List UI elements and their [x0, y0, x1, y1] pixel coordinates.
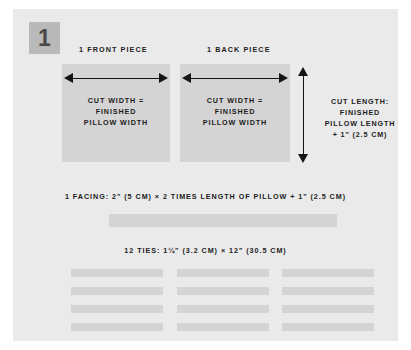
- facing-label: 1 FACING: 2" (5 CM) × 2 TIMES LENGTH OF …: [13, 192, 398, 201]
- diagram-panel: 1 1 FRONT PIECE 1 BACK PIECE CUT WIDTH =…: [13, 9, 398, 341]
- ties-grid: [71, 269, 374, 331]
- back-piece-caption-line-3: PILLOW WIDTH: [180, 117, 290, 128]
- facing-strip-rectangle: [109, 214, 337, 227]
- back-piece-caption-line-1: CUT WIDTH =: [180, 95, 290, 106]
- tie-strip: [282, 269, 374, 277]
- tie-strip: [177, 305, 269, 313]
- step-number-label: 1: [38, 27, 51, 50]
- tie-strip: [282, 305, 374, 313]
- cut-length-line-2: FINISHED: [313, 107, 407, 118]
- arrow-head-right-icon: [159, 73, 168, 83]
- arrow-shaft: [303, 74, 304, 156]
- tie-strip: [71, 269, 163, 277]
- tie-strip: [177, 323, 269, 331]
- front-piece-caption-line-3: PILLOW WIDTH: [62, 117, 170, 128]
- tie-column: [177, 269, 269, 331]
- front-piece-label: 1 FRONT PIECE: [79, 45, 148, 54]
- back-piece-label: 1 BACK PIECE: [207, 45, 271, 54]
- tie-strip: [177, 269, 269, 277]
- tie-strip: [282, 287, 374, 295]
- front-piece-caption-line-2: FINISHED: [62, 106, 170, 117]
- back-width-arrow-icon: [182, 72, 288, 84]
- step-number-badge: 1: [29, 22, 60, 54]
- cut-length-line-4: + 1" (2.5 CM): [313, 129, 407, 140]
- back-piece-caption-line-2: FINISHED: [180, 106, 290, 117]
- tie-strip: [282, 323, 374, 331]
- back-piece-caption: CUT WIDTH = FINISHED PILLOW WIDTH: [180, 95, 290, 128]
- front-piece-caption-line-1: CUT WIDTH =: [62, 95, 170, 106]
- tie-strip: [71, 323, 163, 331]
- diagram-root: 1 1 FRONT PIECE 1 BACK PIECE CUT WIDTH =…: [0, 0, 411, 350]
- tie-strip: [71, 287, 163, 295]
- arrow-head-right-icon: [279, 73, 288, 83]
- ties-label: 12 TIES: 1¼" (3.2 CM) × 12" (30.5 CM): [13, 246, 398, 255]
- arrow-shaft: [71, 78, 161, 79]
- tie-column: [71, 269, 163, 331]
- front-width-arrow-icon: [64, 72, 168, 84]
- arrow-head-down-icon: [298, 154, 308, 163]
- cut-length-arrow-icon: [297, 67, 309, 163]
- cut-length-line-1: CUT LENGTH:: [313, 96, 407, 107]
- cut-length-line-3: PILLOW LENGTH: [313, 118, 407, 129]
- cut-length-caption: CUT LENGTH: FINISHED PILLOW LENGTH + 1" …: [313, 96, 407, 141]
- tie-strip: [177, 287, 269, 295]
- front-piece-caption: CUT WIDTH = FINISHED PILLOW WIDTH: [62, 95, 170, 128]
- arrow-shaft: [189, 78, 281, 79]
- tie-column: [282, 269, 374, 331]
- tie-strip: [71, 305, 163, 313]
